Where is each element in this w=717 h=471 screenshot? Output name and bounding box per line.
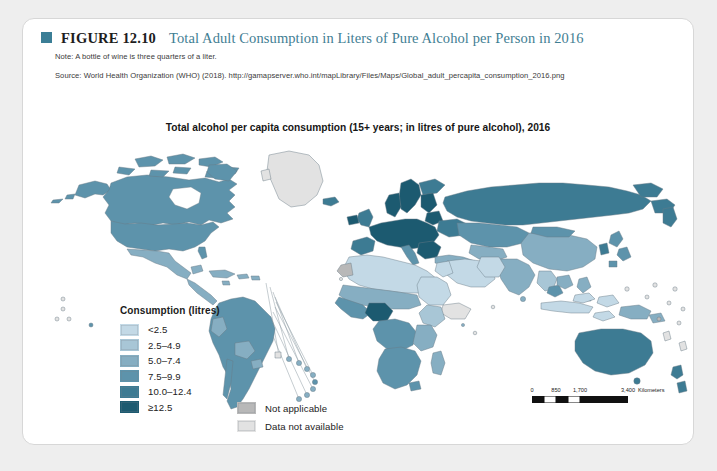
figure-marker-icon [41,32,52,43]
legend-label: 10.0–12.4 [148,386,192,397]
legend-label: 2.5–4.9 [148,340,181,351]
legend-swatch [120,324,139,336]
legend-swatch [120,370,139,382]
legend-items: <2.5 2.5–4.9 5.0–7.4 7.5–9.9 10.0–12.4 [120,322,220,415]
legend-item: 2.5–4.9 [120,338,220,354]
legend-label: ≥12.5 [148,402,172,413]
legend-swatch [120,401,139,413]
legend-swatch [120,355,139,367]
legend-swatch [237,402,256,414]
scalebar-tick-2: 1,700 [573,387,587,393]
legend-item: 7.5–9.9 [120,369,220,385]
scalebar-unit: Kilometers [638,387,664,393]
figure-source: Source: World Health Organization (WHO) … [55,71,565,80]
figure-card: FIGURE 12.10 Total Adult Consumption in … [22,18,694,445]
legend-label: Not applicable [265,403,327,414]
legend-swatch [120,386,139,398]
figure-title: Total Adult Consumption in Liters of Pur… [169,30,584,47]
caribbean-leader-lines [266,283,315,399]
map-scalebar: 0 850 1,700 3,400 Kilometers [532,387,672,403]
map-legend-extra: Not applicable Data not available [237,399,344,435]
figure-number: FIGURE 12.10 [61,30,156,47]
legend-item: 5.0–7.4 [120,353,220,369]
map-title: Total alcohol per capita consumption (15… [23,122,693,133]
caribbean-island-dots [275,352,318,402]
scalebar-tick-3: 3,400 [621,387,635,393]
map-legend: Consumption (litres) <2.5 2.5–4.9 5.0–7.… [120,305,220,415]
legend-title: Consumption (litres) [120,305,220,316]
figure-header: FIGURE 12.10 Total Adult Consumption in … [41,30,681,47]
legend-item: 10.0–12.4 [120,384,220,400]
legend-item: ≥12.5 [120,400,220,416]
atlantic-island-dots [55,297,93,327]
figure-note: Note: A bottle of wine is three quarters… [55,52,217,61]
legend-swatch [237,420,256,432]
legend-item: <2.5 [120,322,220,338]
scalebar-labels: 0 850 1,700 3,400 Kilometers [532,387,672,396]
legend-label: <2.5 [148,324,167,335]
page-background: FIGURE 12.10 Total Adult Consumption in … [0,0,717,471]
legend-item: Not applicable [237,399,344,417]
scalebar-tick-0: 0 [530,387,533,393]
legend-label: 7.5–9.9 [148,371,181,382]
legend-label: 5.0–7.4 [148,355,181,366]
legend-item: Data not available [237,417,344,435]
scalebar-tick-1: 850 [551,387,560,393]
legend-swatch [120,339,139,351]
scalebar-graphic [532,396,632,403]
legend-label: Data not available [265,421,344,432]
